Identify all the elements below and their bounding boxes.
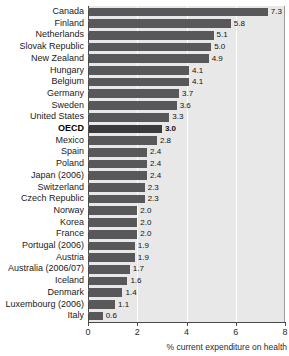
x-tick [137, 322, 138, 326]
x-tick [285, 322, 286, 326]
bar [89, 78, 189, 87]
bar-row: Hungary4.1 [0, 65, 289, 77]
bar [89, 300, 115, 309]
value-label: 4.9 [212, 53, 223, 65]
x-tick-label: 2 [135, 327, 140, 337]
bar [89, 101, 177, 110]
bar [89, 89, 179, 98]
value-label: 2.4 [150, 158, 161, 170]
category-label: France [0, 228, 84, 240]
bar [89, 253, 135, 262]
value-label: 5.8 [234, 18, 245, 30]
value-label: 2.0 [140, 205, 151, 217]
bar-row: Italy0.6 [0, 310, 289, 322]
bar [89, 43, 211, 52]
bar-row: Norway2.0 [0, 205, 289, 217]
category-label: Hungary [0, 65, 84, 77]
category-label: Korea [0, 217, 84, 229]
bar-row: Sweden3.6 [0, 100, 289, 112]
bar [89, 31, 214, 40]
x-tick [88, 322, 89, 326]
category-label: OECD [0, 123, 84, 135]
category-label: United States [0, 111, 84, 123]
x-tick [187, 322, 188, 326]
x-tick-label: 6 [233, 327, 238, 337]
bar [89, 183, 145, 192]
bar-row: Poland2.4 [0, 158, 289, 170]
value-label: 1.9 [138, 240, 149, 252]
bar-chart: Canada7.3Finland5.8Netherlands5.1Slovak … [0, 0, 289, 356]
category-label: Canada [0, 6, 84, 18]
bar-row: New Zealand4.9 [0, 53, 289, 65]
value-label: 3.3 [172, 111, 183, 123]
category-label: Spain [0, 146, 84, 158]
bar-row: Canada7.3 [0, 6, 289, 18]
bar-row: Portugal (2006)1.9 [0, 240, 289, 252]
category-label: Sweden [0, 100, 84, 112]
value-label: 3.7 [182, 88, 193, 100]
bar [89, 230, 137, 239]
bar-row: Germany3.7 [0, 88, 289, 100]
bar-row: France2.0 [0, 228, 289, 240]
x-axis-title: % current expenditure on health [167, 342, 288, 352]
category-label: Czech Republic [0, 193, 84, 205]
bar [89, 160, 147, 169]
value-label: 3.0 [165, 123, 176, 135]
category-label: Finland [0, 18, 84, 30]
bar [89, 242, 135, 251]
value-label: 2.0 [140, 228, 151, 240]
value-label: 5.0 [214, 41, 225, 53]
bar [89, 206, 137, 215]
bar [89, 277, 127, 286]
bar-row: OECD3.0 [0, 123, 289, 135]
value-label: 1.6 [130, 275, 141, 287]
x-tick [236, 322, 237, 326]
bar-row: Spain2.4 [0, 146, 289, 158]
category-label: Netherlands [0, 29, 84, 41]
bar [89, 54, 209, 63]
value-label: 4.1 [192, 65, 203, 77]
value-label: 2.3 [148, 182, 159, 194]
bar-row: Austria1.9 [0, 252, 289, 264]
bar-row: Luxembourg (2006)1.1 [0, 299, 289, 311]
category-label: Poland [0, 158, 84, 170]
x-tick-label: 4 [184, 327, 189, 337]
value-label: 1.1 [118, 299, 129, 311]
category-label: Norway [0, 205, 84, 217]
category-label: Portugal (2006) [0, 240, 84, 252]
bar-row: Iceland1.6 [0, 275, 289, 287]
bar [89, 148, 147, 157]
bar [89, 288, 122, 297]
category-label: Mexico [0, 135, 84, 147]
bar-row: Korea2.0 [0, 217, 289, 229]
value-label: 2.8 [160, 135, 171, 147]
bar-row: Switzerland2.3 [0, 182, 289, 194]
bar-row: Mexico2.8 [0, 135, 289, 147]
bar [89, 19, 231, 28]
value-label: 2.4 [150, 170, 161, 182]
bar [89, 113, 169, 122]
category-label: Switzerland [0, 182, 84, 194]
bar-row: Denmark1.4 [0, 287, 289, 299]
value-label: 2.0 [140, 217, 151, 229]
bar-row: Slovak Republic5.0 [0, 41, 289, 53]
category-label: Italy [0, 310, 84, 322]
category-label: Germany [0, 88, 84, 100]
category-label: Slovak Republic [0, 41, 84, 53]
bar [89, 195, 145, 204]
value-label: 5.1 [217, 29, 228, 41]
bar-row: Belgium4.1 [0, 76, 289, 88]
category-label: Luxembourg (2006) [0, 299, 84, 311]
value-label: 2.4 [150, 146, 161, 158]
bar [89, 125, 162, 134]
value-label: 1.4 [125, 287, 136, 299]
value-label: 7.3 [271, 6, 282, 18]
value-label: 2.3 [148, 193, 159, 205]
category-label: Denmark [0, 287, 84, 299]
bar [89, 66, 189, 75]
category-label: New Zealand [0, 53, 84, 65]
bar [89, 8, 268, 17]
bar [89, 136, 157, 145]
value-label: 4.1 [192, 76, 203, 88]
bar [89, 265, 130, 274]
